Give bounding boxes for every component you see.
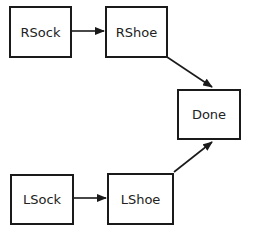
- node-label: Done: [192, 107, 226, 122]
- node-lshoe: LShoe: [107, 173, 174, 225]
- node-label: RSock: [21, 25, 61, 40]
- edge-lshoe-done: [174, 142, 212, 172]
- node-rsock: RSock: [9, 6, 72, 58]
- node-label: RShoe: [116, 25, 157, 40]
- node-lsock: LSock: [10, 174, 74, 225]
- node-label: LSock: [23, 192, 61, 207]
- edge-rshoe-done: [167, 57, 212, 87]
- diagram-canvas: RSock RShoe Done LSock LShoe: [0, 0, 253, 232]
- node-rshoe: RShoe: [105, 6, 168, 58]
- node-label: LShoe: [121, 192, 161, 207]
- node-done: Done: [177, 89, 241, 140]
